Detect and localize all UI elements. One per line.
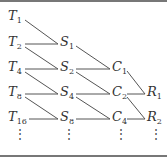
diagram-frame: T1 T2 T4 T8 T16 S1 S2 S4 S8 C1 C2 C4 R1 … [0, 0, 167, 162]
node-t4: T4 [8, 60, 22, 74]
node-s2: S2 [60, 60, 74, 74]
continuation-dots-s: ⋮ [63, 132, 69, 136]
node-c4: C4 [112, 110, 127, 124]
edge-t2-s2 [25, 47, 58, 69]
edge-c2-r2 [127, 97, 145, 119]
edge-t4-s4 [25, 72, 58, 94]
node-t1: T1 [8, 9, 22, 23]
continuation-dots-r: ⋮ [150, 132, 156, 136]
node-s1: S1 [60, 35, 74, 49]
node-c2: C2 [112, 85, 127, 99]
edge-c1-r1 [127, 71, 145, 94]
node-t16: T16 [8, 110, 27, 124]
edge-s1-c1 [76, 46, 110, 69]
node-s8: S8 [60, 110, 74, 124]
node-r2: R2 [147, 110, 162, 124]
edge-t8-s8 [25, 97, 58, 119]
continuation-dots-c: ⋮ [115, 132, 121, 136]
node-s4: S4 [60, 85, 74, 99]
node-r1: R1 [147, 85, 162, 99]
continuation-dots-t: ⋮ [14, 132, 20, 136]
edge-t1-s1 [25, 20, 58, 44]
node-t2: T2 [8, 35, 22, 49]
node-c1: C1 [112, 60, 127, 74]
edge-s4-c4 [76, 97, 110, 119]
node-t8: T8 [8, 85, 22, 99]
bottom-rule [0, 155, 167, 157]
edge-s2-c2 [76, 72, 110, 94]
